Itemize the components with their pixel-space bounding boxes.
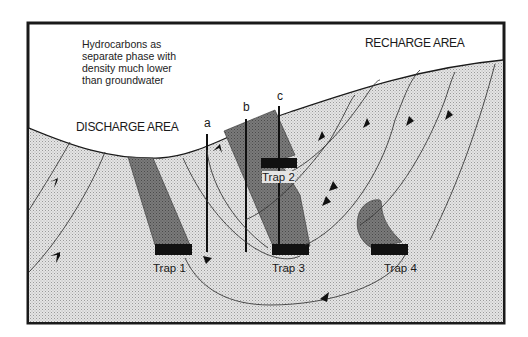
trap2-label: Trap 2	[262, 171, 295, 183]
note-line-4: than groundwater	[82, 74, 282, 86]
discharge-area-label: DISCHARGE AREA	[76, 120, 179, 134]
note-line-3: density much lower	[82, 62, 282, 74]
trap4-cap	[371, 244, 408, 255]
trap4-label: Trap 4	[384, 262, 417, 274]
well-a-label: a	[204, 116, 211, 130]
trap1-cap	[155, 244, 192, 255]
trap3-cap	[272, 244, 309, 255]
hydrocarbon-note: Hydrocarbons as separate phase with dens…	[82, 38, 282, 86]
note-line-2: separate phase with	[82, 50, 282, 62]
recharge-area-label: RECHARGE AREA	[365, 36, 464, 50]
well-c-label: c	[277, 89, 283, 103]
note-line-1: Hydrocarbons as	[82, 38, 282, 50]
trap1-label: Trap 1	[153, 262, 186, 274]
well-b-label: b	[243, 100, 250, 114]
trap3-label: Trap 3	[272, 262, 305, 274]
